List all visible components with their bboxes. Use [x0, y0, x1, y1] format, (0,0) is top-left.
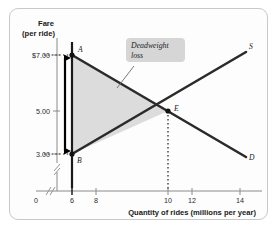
y-axis-title-line1: Fare: [38, 19, 54, 28]
y-tick-label-5.00: 5.00: [36, 107, 50, 116]
point-label-E: E: [173, 104, 179, 113]
supply-demand-chart: A B E S D Deadweight loss Fare (per ride…: [0, 0, 277, 229]
y-axis-break-mark-1: [54, 164, 60, 171]
x-tick-label-0: 0: [34, 196, 38, 205]
figure-root: A B E S D Deadweight loss Fare (per ride…: [0, 0, 277, 229]
x-tick-label-6: 6: [70, 196, 74, 205]
y-axis-title-line2: (per ride): [22, 29, 55, 38]
demand-curve-label: D: [248, 153, 255, 162]
point-label-B: B: [77, 156, 82, 165]
deadweight-loss-line2: loss: [131, 51, 143, 60]
x-tick-label-8: 8: [94, 196, 98, 205]
deadweight-loss-line1: Deadweight: [130, 41, 170, 50]
deadweight-loss-triangle: [72, 55, 168, 154]
point-E: [165, 108, 170, 113]
x-tick-label-14: 14: [236, 196, 244, 205]
y-tick-label-3.00: 3.00: [36, 150, 50, 159]
point-A: [69, 52, 74, 57]
y-tick-label-7.00: $7.00: [32, 51, 50, 60]
supply-curve-label: S: [249, 42, 253, 51]
deadweight-loss-leader-line: [117, 66, 134, 88]
point-B: [69, 151, 74, 156]
x-tick-label-10: 10: [164, 196, 172, 205]
point-label-A: A: [77, 45, 83, 54]
x-tick-label-12: 12: [188, 196, 196, 205]
x-axis-title: Quantity of rides (millions per year): [128, 208, 256, 217]
